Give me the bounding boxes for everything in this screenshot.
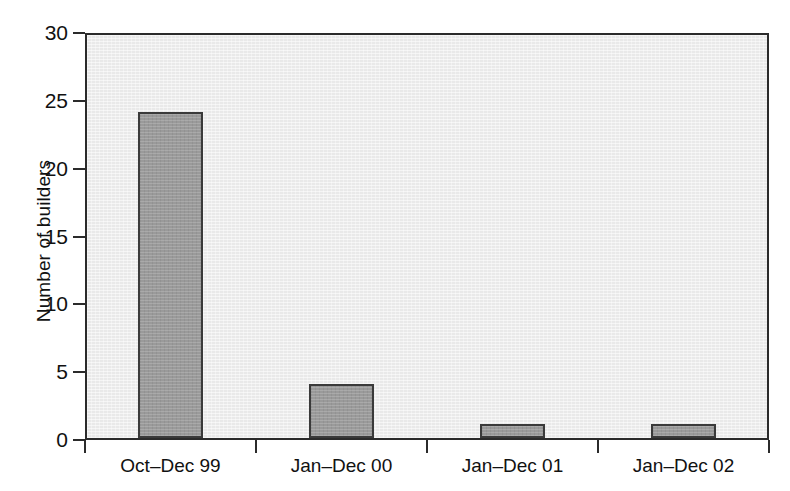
x-tick-label-oct-dec-99: Oct–Dec 99 xyxy=(85,456,256,475)
y-tick-mark-30 xyxy=(73,32,85,34)
y-tick-label-0: 0 xyxy=(0,429,68,450)
y-tick-mark-25 xyxy=(73,100,85,102)
x-tick-mark-1 xyxy=(255,440,257,453)
x-tick-mark-2 xyxy=(426,440,428,453)
y-tick-label-15: 15 xyxy=(0,226,68,247)
bar-oct-dec-99[interactable] xyxy=(138,112,203,438)
y-tick-mark-20 xyxy=(73,168,85,170)
x-tick-mark-0 xyxy=(84,440,86,453)
x-tick-label-jan-dec-00: Jan–Dec 00 xyxy=(256,456,427,475)
y-tick-mark-10 xyxy=(73,303,85,305)
y-tick-label-25: 25 xyxy=(0,90,68,111)
y-tick-mark-5 xyxy=(73,371,85,373)
bar-jan-dec-01[interactable] xyxy=(480,424,545,438)
x-tick-mark-3 xyxy=(597,440,599,453)
y-tick-label-10: 10 xyxy=(0,293,68,314)
y-tick-mark-15 xyxy=(73,236,85,238)
y-tick-label-5: 5 xyxy=(0,361,68,382)
plot-area xyxy=(85,33,769,440)
y-tick-label-20: 20 xyxy=(0,158,68,179)
x-tick-label-jan-dec-02: Jan–Dec 02 xyxy=(598,456,769,475)
y-tick-label-30: 30 xyxy=(0,22,68,43)
bar-jan-dec-02[interactable] xyxy=(651,424,716,438)
bar-chart-figure: Number of builders 0 5 10 15 20 25 30 Oc… xyxy=(0,0,790,491)
bar-jan-dec-00[interactable] xyxy=(309,384,374,438)
x-tick-label-jan-dec-01: Jan–Dec 01 xyxy=(427,456,598,475)
x-tick-mark-4 xyxy=(768,440,770,453)
